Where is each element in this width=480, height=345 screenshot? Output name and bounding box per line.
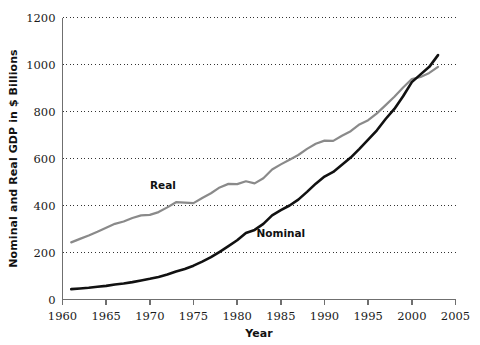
x-tick-label-1985: 1985 xyxy=(266,309,295,323)
gdp-line-chart: 1200100080060040020001960196519701975198… xyxy=(0,0,480,345)
x-tick-label-2005: 2005 xyxy=(441,309,470,323)
y-tick-label-0: 0 xyxy=(48,293,55,307)
x-tick-label-1975: 1975 xyxy=(179,309,208,323)
y-tick-label-200: 200 xyxy=(34,246,56,260)
x-tick-label-1990: 1990 xyxy=(310,309,339,323)
x-tick-label-1995: 1995 xyxy=(354,309,383,323)
x-tick-label-1960: 1960 xyxy=(48,309,77,323)
series-line-real xyxy=(71,67,438,243)
y-tick-label-600: 600 xyxy=(34,152,56,166)
y-axis-title: Nominal and Real GDP in $ Billions xyxy=(7,49,20,268)
y-tick-label-400: 400 xyxy=(34,199,56,213)
x-tick-label-1970: 1970 xyxy=(135,309,164,323)
y-tick-label-1000: 1000 xyxy=(26,58,55,72)
series-annotation-nominal: Nominal xyxy=(256,227,305,239)
y-tick-label-1200: 1200 xyxy=(26,11,55,25)
series-line-nominal xyxy=(71,55,438,289)
x-axis-title: Year xyxy=(244,327,273,340)
y-tick-label-800: 800 xyxy=(34,105,56,119)
x-tick-label-1965: 1965 xyxy=(92,309,121,323)
x-tick-label-2000: 2000 xyxy=(397,309,426,323)
x-tick-label-1980: 1980 xyxy=(223,309,252,323)
chart-canvas: 1200100080060040020001960196519701975198… xyxy=(0,0,480,345)
series-annotation-real: Real xyxy=(150,179,176,191)
